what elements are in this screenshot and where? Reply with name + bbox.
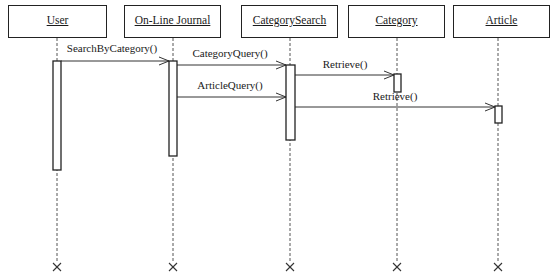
object-box-article: Article [453,5,550,38]
activation-bar-online-journal [169,61,177,156]
destroy-x-icon [286,263,294,271]
object-label: User [47,14,69,26]
object-box-category-search: CategorySearch [241,5,338,38]
destroy-x-icon [169,263,177,271]
object-box-category: Category [348,5,445,38]
message-label: SearchByCategory() [67,42,157,54]
activation-bar-user [53,61,61,170]
object-box-user: User [8,5,107,38]
object-label: On-Line Journal [135,14,211,26]
message-label: ArticleQuery() [197,79,262,91]
message-label: Retrieve() [323,58,368,70]
destroy-x-icon [53,263,61,271]
activation-bar-article [495,106,502,123]
message-label: Retrieve() [373,90,418,102]
message-label: CategoryQuery() [192,47,267,59]
activation-bar-category-search [286,65,295,140]
object-box-online-journal: On-Line Journal [124,5,221,38]
destroy-x-icon [393,263,401,271]
object-label: Category [375,14,417,26]
object-label: CategorySearch [253,14,326,26]
object-label: Article [486,14,518,26]
destroy-x-icon [494,263,502,271]
